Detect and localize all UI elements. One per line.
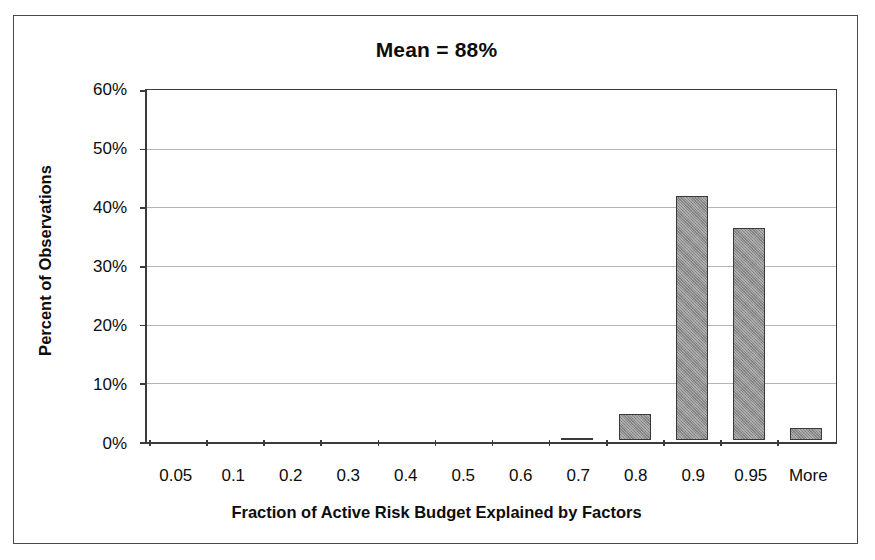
y-axis-title: Percent of Observations xyxy=(36,111,55,411)
bar-slot xyxy=(206,92,263,441)
bar-slot xyxy=(320,92,377,441)
x-axis-tick xyxy=(263,440,265,446)
bar xyxy=(619,414,651,440)
x-axis-tick-label: 0.1 xyxy=(205,466,263,486)
y-axis-tick-label: 50% xyxy=(93,139,127,159)
x-axis-tick xyxy=(206,440,208,446)
y-axis-tick-label: 60% xyxy=(93,80,127,100)
x-axis-tick-label: 0.6 xyxy=(492,466,550,486)
y-axis-tick-label: 20% xyxy=(93,316,127,336)
x-axis-tick-label: More xyxy=(780,466,838,486)
bar-slot xyxy=(435,92,492,441)
bar-slot xyxy=(720,92,777,441)
bar-slot xyxy=(606,92,663,441)
x-axis-title: Fraction of Active Risk Budget Explained… xyxy=(14,503,859,522)
x-axis-tick xyxy=(378,440,380,446)
plot-area: 60%50%40%30%20%10%0% xyxy=(145,89,837,444)
y-axis-tick-label: 30% xyxy=(93,257,127,277)
x-axis-tick-label: 0.95 xyxy=(722,466,780,486)
y-axis-tick: 0% xyxy=(140,442,147,444)
x-axis-tick-label: 0.5 xyxy=(435,466,493,486)
y-axis-tick-label: 40% xyxy=(93,198,127,218)
x-axis-tick-label: 0.05 xyxy=(147,466,205,486)
bar xyxy=(561,438,593,440)
bar xyxy=(676,196,708,440)
x-axis-tick-label: 0.2 xyxy=(262,466,320,486)
y-axis-tick: 40% xyxy=(140,207,147,209)
x-axis-tick-labels: 0.050.10.20.30.40.50.60.70.80.90.95More xyxy=(147,466,837,486)
bar-slot xyxy=(492,92,549,441)
x-axis-tick-label: 0.9 xyxy=(665,466,723,486)
y-axis-tick: 20% xyxy=(140,325,147,327)
x-axis-tick xyxy=(720,440,722,446)
y-axis-tick: 30% xyxy=(140,266,147,268)
bar-slot xyxy=(149,92,206,441)
x-axis-tick-label: 0.8 xyxy=(607,466,665,486)
x-axis-tick xyxy=(606,440,608,446)
bar-slot xyxy=(263,92,320,441)
x-axis-tick xyxy=(663,440,665,446)
bar-slot xyxy=(549,92,606,441)
x-axis-tick xyxy=(777,440,779,446)
bar xyxy=(733,228,765,440)
x-axis-tick-label: 0.4 xyxy=(377,466,435,486)
bar-slot xyxy=(663,92,720,441)
y-axis-tick: 50% xyxy=(140,149,147,151)
y-axis-tick: 60% xyxy=(140,90,147,92)
bar-series xyxy=(149,92,835,441)
chart-figure-frame: Mean = 88% Percent of Observations 60%50… xyxy=(13,15,858,544)
x-axis-tick xyxy=(435,440,437,446)
x-axis-tick xyxy=(149,440,151,446)
x-axis-tick xyxy=(320,440,322,446)
chart-title: Mean = 88% xyxy=(14,38,859,62)
bar-slot xyxy=(378,92,435,441)
x-axis-tick xyxy=(492,440,494,446)
y-axis-tick-label: 0% xyxy=(102,434,127,454)
bar xyxy=(790,428,822,440)
y-axis-tick: 10% xyxy=(140,383,147,385)
x-axis-tick-label: 0.7 xyxy=(550,466,608,486)
bar-slot xyxy=(777,92,834,441)
y-axis-tick-label: 10% xyxy=(93,375,127,395)
x-axis-tick xyxy=(549,440,551,446)
x-axis-tick-label: 0.3 xyxy=(320,466,378,486)
